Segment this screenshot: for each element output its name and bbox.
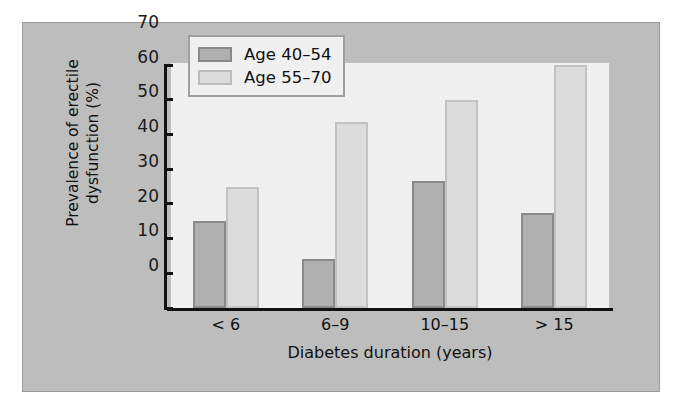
y-axis-tick (164, 168, 173, 171)
bar-age-55-70 (554, 65, 587, 308)
bar-age-55-70 (335, 122, 368, 308)
x-axis-tick-label: 6–9 (285, 315, 385, 334)
x-axis-tick-label: < 6 (176, 315, 276, 334)
x-axis-line (167, 308, 613, 311)
legend-label: Age 40–54 (244, 45, 331, 64)
y-axis (164, 65, 172, 309)
bar-age-40-54 (521, 213, 554, 308)
y-axis-tick (164, 98, 173, 101)
legend-item: Age 40–54 (198, 43, 331, 66)
x-axis-tick-label: 10–15 (395, 315, 495, 334)
y-axis-tick (164, 237, 173, 240)
x-axis-tick-label: > 15 (504, 315, 604, 334)
y-axis-title: Prevalence of erectile dysfunction (%) (23, 43, 143, 243)
legend: Age 40–54Age 55–70 (188, 35, 345, 97)
y-axis-title-line1: Prevalence of erectile (63, 59, 83, 227)
bar-age-40-54 (193, 221, 226, 308)
y-axis-tick-label: 70 (137, 14, 159, 31)
y-axis-tick (164, 64, 173, 67)
legend-item: Age 55–70 (198, 66, 331, 89)
figure-panel: 010203040506070 Prevalence of erectile d… (22, 22, 660, 392)
legend-swatch-icon (198, 70, 232, 85)
y-axis-tick (164, 307, 173, 310)
bar-age-40-54 (412, 181, 445, 308)
bar-age-55-70 (445, 100, 478, 308)
y-axis-tick (164, 133, 173, 136)
y-axis-tick (164, 272, 173, 275)
x-axis-title: Diabetes duration (years) (171, 343, 609, 362)
bar-age-40-54 (302, 259, 335, 308)
legend-label: Age 55–70 (244, 68, 331, 87)
y-axis-tick (164, 202, 173, 205)
bar-age-55-70 (226, 187, 259, 309)
y-axis-title-line2: dysfunction (%) (83, 82, 103, 204)
legend-swatch-icon (198, 47, 232, 62)
y-axis-tick-label: 0 (148, 257, 159, 274)
